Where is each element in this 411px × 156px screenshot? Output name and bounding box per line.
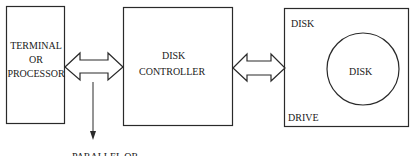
parallel-or-label: PARALLEL OR [72, 151, 139, 156]
down-arrow [90, 82, 96, 140]
disk-system-diagram: TERMINAL OR PROCESSOR DISK CONTROLLER DI… [0, 0, 411, 156]
or-label: OR [29, 54, 43, 65]
terminal-label: TERMINAL [10, 40, 62, 51]
drive-label: DRIVE [288, 112, 319, 123]
bidirectional-arrow-left [65, 53, 123, 80]
drive-disk-label: DISK [291, 18, 315, 29]
controller-label: CONTROLLER [139, 66, 205, 77]
terminal-processor-node: TERMINAL OR PROCESSOR [7, 7, 65, 124]
bidirectional-arrow-right [233, 54, 285, 81]
controller-disk-label: DISK [162, 50, 186, 61]
platter-disk-label: DISK [349, 66, 373, 77]
disk-drive-node: DISK DRIVE DISK [285, 9, 409, 127]
disk-controller-node: DISK CONTROLLER [124, 8, 233, 126]
processor-label: PROCESSOR [7, 68, 65, 79]
